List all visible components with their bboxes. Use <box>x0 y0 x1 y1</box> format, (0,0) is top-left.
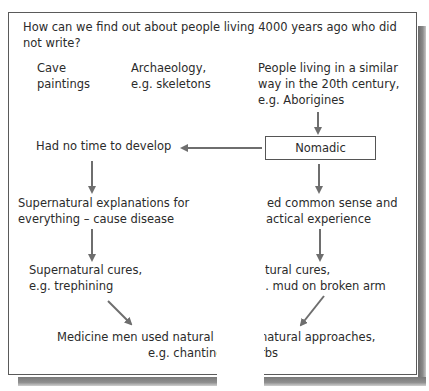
supernatural-cures-line-2: e.g. trephining <box>29 279 113 294</box>
nomadic-box: Nomadic <box>265 136 376 160</box>
source-people-line-1: People living in a similar <box>258 61 398 76</box>
source-cave-line-2: paintings <box>37 77 90 92</box>
question-line-2: not write? <box>23 36 81 51</box>
source-archaeology-line-2: e.g. skeletons <box>131 77 211 92</box>
source-cave-line-1: Cave <box>37 61 66 76</box>
source-people-line-3: e.g. Aborigines <box>258 93 344 108</box>
source-archaeology-line-1: Archaeology, <box>131 61 206 76</box>
no-time-to-develop: Had no time to develop <box>36 139 171 154</box>
occluder-lower <box>217 325 264 391</box>
natural-cures-line-1: tural cures, <box>265 263 330 278</box>
natural-cures-line-2: j. mud on broken arm <box>262 279 386 294</box>
supernatural-explanations-line-1: Supernatural explanations for <box>18 196 189 211</box>
supernatural-explanations-line-2: everything – cause disease <box>18 212 174 227</box>
nomadic-label: Nomadic <box>295 141 346 155</box>
medicine-men-line-1-left: Medicine men used natural ar <box>57 330 229 345</box>
medicine-men-line-1-right: natural approaches, <box>260 330 375 345</box>
medicine-men-line-2-left: e.g. chantinç <box>148 346 223 361</box>
common-sense-line-2: actical experience <box>266 212 371 227</box>
question-line-1: How can we find out about people living … <box>23 20 397 35</box>
common-sense-line-1: ed common sense and <box>267 196 398 211</box>
occluder-upper <box>226 190 265 325</box>
source-people-line-2: way in the 20th century, <box>258 77 399 92</box>
supernatural-cures-line-1: Supernatural cures, <box>29 263 142 278</box>
frame-shadow-right <box>418 26 426 384</box>
